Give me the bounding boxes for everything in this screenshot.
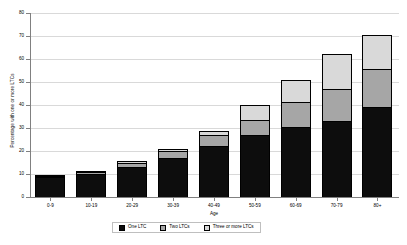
legend-swatch-icon: [119, 225, 125, 231]
bar-segment[interactable]: [322, 121, 352, 197]
bar-segment[interactable]: [117, 167, 147, 197]
x-axis-tick-label: 40-49: [199, 203, 229, 208]
bar-segment[interactable]: [322, 89, 352, 121]
y-axis-tick-label: 10: [8, 172, 24, 177]
bar-stack[interactable]: [362, 13, 392, 197]
x-axis-title: Age: [30, 211, 398, 216]
bar-segment[interactable]: [76, 174, 106, 197]
x-axis-tick-label: 0-9: [35, 203, 65, 208]
x-axis-tick-mark: [240, 197, 270, 201]
bar-group: [30, 13, 398, 197]
x-axis-tick-mark: [322, 197, 352, 201]
x-axis-tick-marks: [30, 197, 398, 201]
y-axis-tick-label: 40: [8, 103, 24, 108]
bar-segment[interactable]: [281, 80, 311, 102]
x-axis-tick-mark: [76, 197, 106, 201]
x-axis-tick-label: 60-69: [281, 203, 311, 208]
bar-stack[interactable]: [199, 13, 229, 197]
x-axis-tick-label: 70-79: [322, 203, 352, 208]
y-axis-tick-label: 0: [8, 195, 24, 200]
bar-stack[interactable]: [76, 13, 106, 197]
bar-segment[interactable]: [281, 102, 311, 127]
x-axis-tick-label: 10-19: [76, 203, 106, 208]
bar-segment[interactable]: [158, 151, 188, 158]
bar-stack[interactable]: [281, 13, 311, 197]
legend-label: One LTC: [128, 225, 146, 230]
chart-legend: One LTCTwo LTCsThree or more LTCs: [112, 222, 261, 233]
legend-swatch-icon: [204, 225, 210, 231]
bar-segment[interactable]: [362, 69, 392, 107]
y-axis-tick-label: 50: [8, 80, 24, 85]
bar-segment[interactable]: [362, 107, 392, 197]
bar-stack[interactable]: [322, 13, 352, 197]
legend-label: Three or more LTCs: [213, 225, 254, 230]
y-axis-title: Percentage with one or more LTCs: [10, 41, 15, 181]
legend-item[interactable]: One LTC: [119, 225, 146, 231]
bar-segment[interactable]: [199, 135, 229, 147]
bar-segment[interactable]: [158, 158, 188, 197]
x-axis-tick-mark: [199, 197, 229, 201]
bar-stack[interactable]: [117, 13, 147, 197]
x-axis-tick-mark: [281, 197, 311, 201]
legend-item[interactable]: Three or more LTCs: [204, 225, 254, 231]
bar-segment[interactable]: [199, 146, 229, 197]
bar-segment[interactable]: [362, 35, 392, 70]
x-axis-tick-label: 80+: [362, 203, 392, 208]
x-axis-tick-mark: [35, 197, 65, 201]
y-axis-tick-label: 20: [8, 149, 24, 154]
bar-segment[interactable]: [281, 127, 311, 197]
x-axis-tick-labels: 0-910-1920-2930-3940-4950-5960-6970-7980…: [30, 203, 398, 208]
legend-item[interactable]: Two LTCs: [160, 225, 189, 231]
chart-container: Percentage with one or more LTCs 0102030…: [0, 0, 407, 245]
x-axis-tick-mark: [362, 197, 392, 201]
x-axis-tick-label: 50-59: [240, 203, 270, 208]
bar-segment[interactable]: [240, 120, 270, 135]
bar-segment[interactable]: [240, 135, 270, 197]
bar-segment[interactable]: [240, 105, 270, 120]
bar-segment[interactable]: [322, 54, 352, 89]
bar-stack[interactable]: [35, 13, 65, 197]
y-axis-tick-label: 80: [8, 11, 24, 16]
x-axis-tick-mark: [117, 197, 147, 201]
bar-stack[interactable]: [240, 13, 270, 197]
x-axis-tick-label: 30-39: [158, 203, 188, 208]
y-axis-tick-label: 70: [8, 34, 24, 39]
bar-segment[interactable]: [35, 177, 65, 197]
y-axis-tick-label: 60: [8, 57, 24, 62]
x-axis-tick-label: 20-29: [117, 203, 147, 208]
legend-label: Two LTCs: [169, 225, 189, 230]
x-axis-tick-mark: [158, 197, 188, 201]
legend-swatch-icon: [160, 225, 166, 231]
y-axis-tick-label: 30: [8, 126, 24, 131]
bar-stack[interactable]: [158, 13, 188, 197]
